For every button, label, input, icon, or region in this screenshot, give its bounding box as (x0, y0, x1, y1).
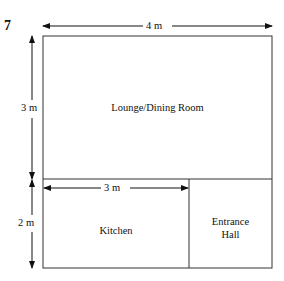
entrance-hall-line1: Entrance (189, 215, 272, 228)
kitchen-width-label: 3 m (104, 182, 120, 194)
lounge-height-label: 3 m (21, 102, 37, 114)
question-number: 7 (4, 18, 11, 34)
kitchen-height-label: 2 m (18, 217, 34, 229)
kitchen-label: Kitchen (43, 224, 189, 237)
entrance-hall-line2: Hall (189, 228, 272, 241)
lounge-dining-room-label: Lounge/Dining Room (43, 101, 272, 114)
entrance-hall-label: Entrance Hall (189, 215, 272, 241)
total-width-label: 4 m (146, 20, 162, 32)
